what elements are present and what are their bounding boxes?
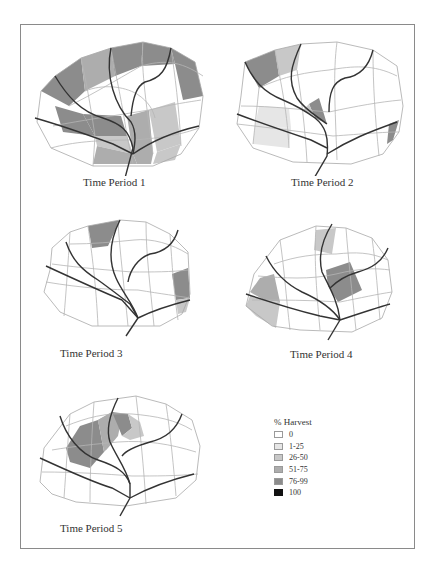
harvest-map-5 bbox=[36, 390, 206, 520]
harvest-map-3 bbox=[42, 214, 212, 344]
map-panel-2: Time Period 2 bbox=[233, 36, 413, 176]
caption-5: Time Period 5 bbox=[60, 522, 123, 534]
legend-item-4: 76-99 bbox=[274, 475, 312, 487]
legend-swatch bbox=[274, 478, 283, 485]
legend-item-5: 100 bbox=[274, 487, 312, 499]
legend-swatch bbox=[274, 431, 283, 438]
legend-label: 26-50 bbox=[289, 453, 308, 462]
legend-item-2: 26-50 bbox=[274, 452, 312, 464]
caption-4: Time Period 4 bbox=[290, 348, 353, 360]
legend-label: 0 bbox=[289, 430, 293, 439]
legend-swatch bbox=[274, 454, 283, 461]
map-panel-1: Time Period 1 bbox=[33, 36, 213, 176]
caption-2: Time Period 2 bbox=[291, 176, 354, 188]
harvest-map-2 bbox=[233, 36, 413, 176]
legend-swatch bbox=[274, 466, 283, 473]
harvest-map-1 bbox=[33, 36, 213, 176]
legend-swatch bbox=[274, 489, 283, 496]
legend-item-3: 51-75 bbox=[274, 464, 312, 476]
legend-label: 100 bbox=[289, 488, 301, 497]
map-panel-5: Time Period 5 bbox=[36, 390, 206, 520]
harvest-map-4 bbox=[240, 216, 410, 346]
legend-item-0: 0 bbox=[274, 429, 312, 441]
caption-1: Time Period 1 bbox=[83, 176, 146, 188]
legend-label: 76-99 bbox=[289, 477, 308, 486]
harvest-legend: % Harvest 0 1-25 26-50 51-75 76-99 100 bbox=[274, 417, 312, 499]
caption-3: Time Period 3 bbox=[60, 347, 123, 359]
legend-label: 1-25 bbox=[289, 442, 304, 451]
legend-item-1: 1-25 bbox=[274, 441, 312, 453]
legend-label: 51-75 bbox=[289, 465, 308, 474]
map-panel-3: Time Period 3 bbox=[42, 214, 212, 344]
map-panel-4: Time Period 4 bbox=[240, 216, 410, 346]
legend-swatch bbox=[274, 443, 283, 450]
legend-title: % Harvest bbox=[274, 417, 312, 427]
